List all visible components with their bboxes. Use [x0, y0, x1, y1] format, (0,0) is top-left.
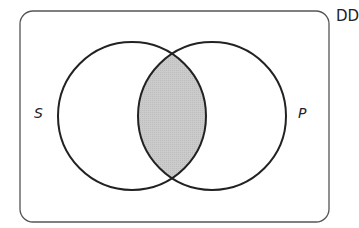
- corner-text: DD: [336, 9, 359, 24]
- set-p-label: P: [298, 106, 306, 120]
- set-s-label: S: [34, 106, 43, 120]
